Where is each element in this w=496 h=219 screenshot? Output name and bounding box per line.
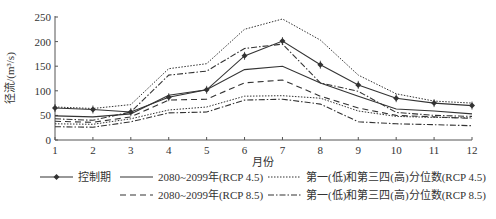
x-tick-label: 6 — [242, 144, 248, 156]
legend-marker — [54, 174, 60, 180]
series-line-5 — [55, 44, 472, 120]
y-tick-label: 50 — [40, 109, 52, 121]
x-tick-label: 2 — [90, 144, 96, 156]
x-tick-label: 1 — [52, 144, 58, 156]
series-line-4 — [55, 80, 472, 122]
x-tick-label: 8 — [318, 144, 324, 156]
x-axis-label: 月份 — [252, 156, 274, 168]
x-tick-label: 3 — [128, 144, 134, 156]
legend-item-2: 第一(低)和第三四(高)分位数(RCP 4.5) — [268, 170, 486, 184]
chart-legend: 控制期2080~2099年(RCP 4.5)第一(低)和第三四(高)分位数(RC… — [40, 170, 486, 202]
x-tick-label: 12 — [467, 144, 478, 156]
legend-item-3: 2080~2099年(RCP 8.5) — [120, 188, 263, 202]
y-tick-label: 200 — [35, 36, 52, 48]
y-axis-label: 径流/(m³/s) — [3, 52, 17, 104]
y-tick-label: 250 — [35, 11, 52, 23]
y-tick-label: 100 — [35, 85, 52, 97]
legend-label: 第一(低)和第三四(高)分位数(RCP 8.5) — [306, 188, 486, 202]
series-line-2 — [55, 19, 472, 109]
series-line-1 — [55, 66, 472, 117]
x-tick-label: 9 — [356, 144, 362, 156]
x-tick-label: 5 — [204, 144, 210, 156]
runoff-line-chart: 050100150200250123456789101112 径流/(m³/s)… — [0, 0, 496, 219]
chart-series — [52, 19, 475, 127]
legend-label: 2080~2099年(RCP 4.5) — [158, 170, 263, 184]
legend-item-0: 控制期 — [40, 170, 111, 183]
x-tick-label: 4 — [166, 144, 172, 156]
legend-item-1: 2080~2099年(RCP 4.5) — [120, 170, 263, 184]
legend-label: 2080~2099年(RCP 8.5) — [158, 188, 263, 202]
y-tick-label: 0 — [46, 134, 52, 146]
x-tick-label: 7 — [280, 144, 286, 156]
x-tick-label: 11 — [429, 144, 440, 156]
legend-item-4: 第一(低)和第三四(高)分位数(RCP 8.5) — [268, 188, 486, 202]
y-tick-label: 150 — [35, 60, 52, 72]
series-line-0 — [55, 41, 472, 112]
x-tick-label: 10 — [391, 144, 403, 156]
legend-label: 第一(低)和第三四(高)分位数(RCP 4.5) — [306, 170, 486, 184]
chart-axes: 050100150200250123456789101112 — [35, 11, 478, 156]
legend-label: 控制期 — [78, 170, 111, 183]
